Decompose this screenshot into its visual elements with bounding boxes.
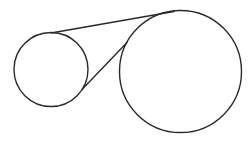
external-tangent-line bbox=[51, 12, 174, 34]
small-circle bbox=[14, 33, 88, 107]
large-circle bbox=[120, 11, 242, 133]
tangent-circles-diagram bbox=[0, 0, 252, 142]
